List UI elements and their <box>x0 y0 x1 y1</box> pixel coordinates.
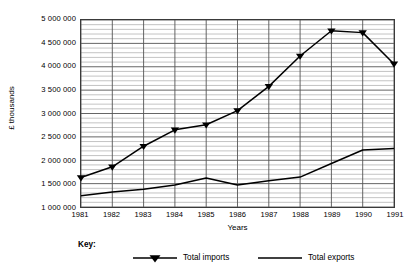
x-axis-tick-label: 1983 <box>135 211 152 219</box>
chart-key: Key: Total imports Total exports <box>0 240 416 272</box>
y-axis-tick-label: 2 000 000 <box>0 157 76 165</box>
x-axis-tick-label: 1985 <box>198 211 215 219</box>
key-entry-total-exports: Total exports <box>258 253 354 263</box>
plot-area <box>80 19 395 208</box>
x-axis-tick-label: 1984 <box>166 211 183 219</box>
y-axis-tick-label: 1 500 000 <box>0 181 76 189</box>
key-entry-total-imports: Total imports <box>133 253 229 263</box>
y-axis-tick-label: 1 000 000 <box>0 204 76 212</box>
x-axis-tick-label: 1989 <box>324 211 341 219</box>
line-chart: £ thousands 5 000 0004 500 0004 000 0003… <box>0 0 416 272</box>
data-series-layer <box>81 20 394 207</box>
x-axis-tick-label: 1991 <box>387 211 404 219</box>
key-entry-label: Total exports <box>308 254 354 262</box>
y-axis-tick-label: 5 000 000 <box>0 15 76 23</box>
y-axis-tick-label: 2 500 000 <box>0 133 76 141</box>
key-sample-exports-icon <box>258 253 302 263</box>
y-axis-tick-label: 4 000 000 <box>0 62 76 70</box>
x-axis-tick-label: 1988 <box>292 211 309 219</box>
x-axis-tick-label: 1987 <box>261 211 278 219</box>
y-axis-tick-label: 3 000 000 <box>0 110 76 118</box>
y-axis-tick-label: 4 500 000 <box>0 39 76 47</box>
x-axis-tick-label: 1981 <box>72 211 89 219</box>
y-axis-tick-labels: 5 000 0004 500 0004 000 0003 500 0003 00… <box>0 0 76 272</box>
x-axis-title: Years <box>80 224 395 232</box>
key-entry-label: Total imports <box>183 254 229 262</box>
x-axis-tick-label: 1990 <box>355 211 372 219</box>
key-label: Key: <box>78 241 96 249</box>
x-axis-tick-label: 1986 <box>229 211 246 219</box>
y-axis-tick-label: 3 500 000 <box>0 86 76 94</box>
x-axis-tick-label: 1982 <box>103 211 120 219</box>
key-sample-imports-icon <box>133 253 177 263</box>
